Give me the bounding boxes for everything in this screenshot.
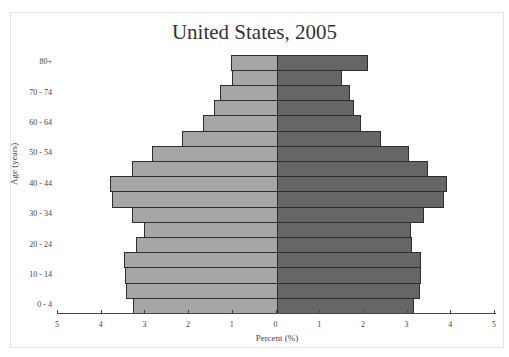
x-tick-label: 5 — [484, 320, 504, 329]
bar-left — [203, 115, 278, 131]
x-tick-label: 3 — [397, 320, 417, 329]
bar-left — [126, 283, 278, 299]
x-tick-label: 1 — [222, 320, 242, 329]
y-tick-label: 60 - 64 — [2, 118, 52, 127]
y-tick-label: 20 - 24 — [2, 240, 52, 249]
bar-left — [144, 222, 278, 238]
bar-right — [277, 131, 381, 147]
y-tick-label: 10 - 14 — [2, 270, 52, 279]
y-tick-label: 80+ — [2, 57, 52, 66]
bar-left — [110, 176, 278, 192]
bar-left — [124, 252, 278, 268]
x-axis-line — [57, 313, 496, 314]
bar-left — [132, 207, 278, 223]
bar-left — [125, 267, 278, 283]
y-tick-label: 50 - 54 — [2, 148, 52, 157]
plot-area: 0 - 410 - 1420 - 2430 - 3440 - 4450 - 54… — [0, 0, 509, 357]
bar-right — [277, 55, 368, 71]
bar-right — [277, 161, 428, 177]
x-tick-label: 5 — [47, 320, 67, 329]
x-tick-label: 2 — [353, 320, 373, 329]
bar-right — [277, 176, 447, 192]
bar-right — [277, 191, 444, 207]
bar-right — [277, 100, 354, 116]
bar-right — [277, 267, 421, 283]
bar-right — [277, 252, 421, 268]
x-tick-label: 2 — [178, 320, 198, 329]
y-tick-label: 0 - 4 — [2, 300, 52, 309]
x-tick-label: 1 — [309, 320, 329, 329]
bar-left — [182, 131, 278, 147]
bar-right — [277, 207, 424, 223]
bar-right — [277, 146, 409, 162]
y-tick-label: 30 - 34 — [2, 209, 52, 218]
bar-left — [232, 70, 278, 86]
bar-left — [214, 100, 278, 116]
bar-left — [133, 298, 278, 314]
x-tick-label: 3 — [134, 320, 154, 329]
bar-right — [277, 85, 350, 101]
bar-right — [277, 298, 414, 314]
bar-right — [277, 115, 361, 131]
bar-right — [277, 283, 420, 299]
x-tick-label: 4 — [91, 320, 111, 329]
x-tick-label: 0 — [266, 320, 286, 329]
bar-left — [132, 161, 278, 177]
bar-left — [152, 146, 278, 162]
x-tick-label: 4 — [440, 320, 460, 329]
bar-left — [220, 85, 278, 101]
y-tick-label: 70 - 74 — [2, 88, 52, 97]
bar-right — [277, 70, 342, 86]
bar-right — [277, 222, 411, 238]
bar-left — [231, 55, 278, 71]
bar-left — [112, 191, 278, 207]
bar-right — [277, 237, 412, 253]
bar-left — [136, 237, 278, 253]
y-tick-label: 40 - 44 — [2, 179, 52, 188]
